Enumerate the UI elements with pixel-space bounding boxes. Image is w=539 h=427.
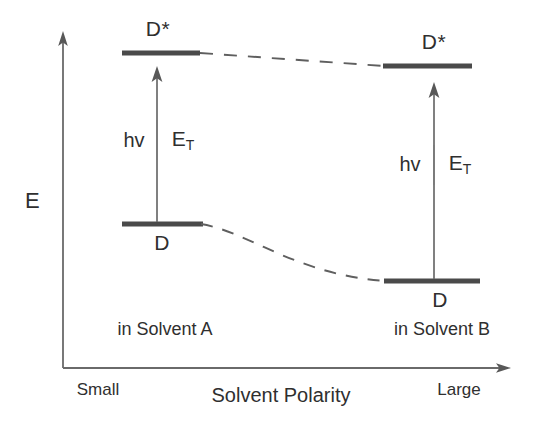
energy-label-solvent-a-main: E bbox=[172, 127, 186, 150]
absorption-label-solvent-b: hv bbox=[399, 154, 420, 174]
energy-label-solvent-b: ET bbox=[449, 152, 472, 173]
x-axis-label: Solvent Polarity bbox=[212, 385, 351, 405]
ground-state-label-solvent-b: D bbox=[432, 289, 448, 310]
absorption-label-solvent-a: hv bbox=[123, 130, 144, 150]
diagram-canvas bbox=[0, 0, 539, 427]
x-axis-tick-left: Small bbox=[77, 381, 120, 398]
energy-label-solvent-a-sub: T bbox=[186, 137, 195, 153]
energy-label-solvent-b-sub: T bbox=[463, 161, 472, 177]
y-axis bbox=[58, 31, 68, 368]
energy-label-solvent-b-main: E bbox=[449, 151, 463, 174]
energy-level-diagram: E D* D hv ET in Solvent A D* D hv ET in … bbox=[0, 0, 539, 427]
caption-solvent-a: in Solvent A bbox=[117, 320, 212, 338]
label-divider-group bbox=[157, 120, 434, 185]
y-axis-label: E bbox=[25, 190, 40, 212]
excited-state-label-solvent-a: D* bbox=[146, 18, 170, 39]
x-axis-tick-right: Large bbox=[437, 381, 480, 398]
ground-state-label-solvent-a: D bbox=[154, 232, 170, 253]
x-axis bbox=[63, 363, 511, 373]
caption-solvent-b: in Solvent B bbox=[394, 320, 490, 338]
energy-label-solvent-a: ET bbox=[172, 128, 195, 149]
excited-state-label-solvent-b: D* bbox=[422, 31, 446, 52]
ground-level-dashed-connector bbox=[201, 224, 386, 281]
ground-state-group bbox=[122, 224, 480, 281]
excited-level-dashed-connector bbox=[200, 53, 384, 66]
excited-state-group bbox=[122, 53, 472, 66]
